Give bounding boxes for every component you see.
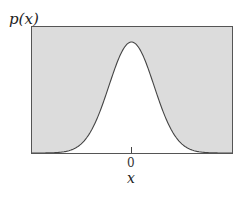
y-axis-label: p(x) (9, 12, 39, 27)
gaussian-density-chart (0, 0, 248, 201)
x-axis-label: x (127, 171, 135, 185)
x-tick-label-0: 0 (127, 157, 135, 169)
